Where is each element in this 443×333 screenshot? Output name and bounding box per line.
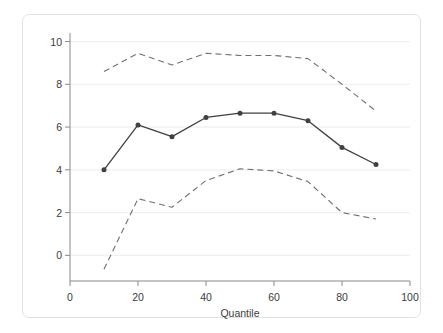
series-line-1 [104,53,376,111]
quantile-regression-chart: 0246810 020406080100 Quantile [0,0,443,333]
x-tick-label-60: 60 [268,291,280,303]
x-tick-label-20: 20 [132,291,144,303]
data-point-marker [102,167,107,172]
x-axis-ticks [70,281,410,286]
y-tick-label-4: 4 [34,164,62,176]
series-group [104,53,376,269]
data-point-marker [136,122,141,127]
y-axis-ticks [65,42,70,256]
series-line-0 [104,113,376,170]
data-point-marker [306,118,311,123]
y-tick-label-0: 0 [34,249,62,261]
y-tick-label-8: 8 [34,78,62,90]
markers-group [102,111,379,173]
y-tick-label-10: 10 [34,36,62,48]
x-tick-label-80: 80 [336,291,348,303]
chart-canvas [0,0,443,333]
data-point-marker [170,134,175,139]
y-tick-label-6: 6 [34,121,62,133]
x-axis-title: Quantile [70,307,410,319]
data-point-marker [272,111,277,116]
x-tick-label-100: 100 [401,291,419,303]
data-point-marker [238,111,243,116]
x-tick-label-40: 40 [200,291,212,303]
data-point-marker [204,115,209,120]
series-line-2 [104,169,376,269]
data-point-marker [374,162,379,167]
x-tick-label-0: 0 [67,291,73,303]
data-point-marker [340,145,345,150]
axes-group [70,33,410,281]
y-tick-label-2: 2 [34,207,62,219]
